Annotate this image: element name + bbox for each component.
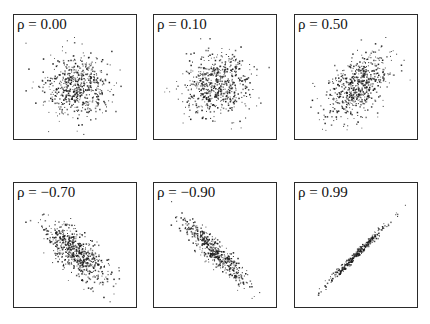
correlation-label: ρ = 0.50 — [298, 16, 348, 33]
correlation-label: ρ = 0.99 — [298, 184, 348, 201]
scatter-points — [295, 15, 419, 141]
scatter-points — [154, 15, 278, 141]
scatter-panel-rho-0-00: ρ = 0.00 — [13, 14, 137, 140]
correlation-label: ρ = −0.70 — [17, 184, 75, 201]
correlation-label: ρ = −0.90 — [157, 184, 215, 201]
scatter-panel-rho-0-50: ρ = 0.50 — [294, 14, 418, 140]
scatter-panel-rho-0-10: ρ = 0.10 — [153, 14, 277, 140]
correlation-label: ρ = 0.10 — [157, 16, 207, 33]
scatter-points — [154, 183, 278, 309]
scatter-panel-rho-neg-0-90: ρ = −0.90 — [153, 182, 277, 308]
scatter-points — [295, 183, 419, 309]
scatter-points — [14, 15, 138, 141]
correlation-label: ρ = 0.00 — [17, 16, 67, 33]
scatter-panel-rho-0-99: ρ = 0.99 — [294, 182, 418, 308]
scatter-points — [14, 183, 138, 309]
scatter-panel-rho-neg-0-70: ρ = −0.70 — [13, 182, 137, 308]
